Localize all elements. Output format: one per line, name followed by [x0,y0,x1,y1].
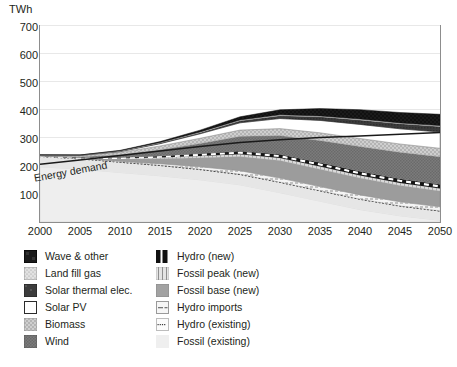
swatch-solar-pv-icon [24,301,37,314]
swatch-land-fill-gas-icon [24,267,37,280]
legend-item-biomass: Biomass [24,316,133,333]
y-tick-600: 600 [4,50,38,61]
legend-label-land-fill-gas: Land fill gas [45,268,101,279]
swatch-fossil-peak-new-icon [156,267,169,280]
y-tick-100: 100 [4,190,38,201]
legend-item-land-fill-gas: Land fill gas [24,265,133,282]
legend-item-wave-other: Wave & other [24,248,133,265]
x-tick-2015: 2015 [148,226,172,237]
y-tick-500: 500 [4,78,38,89]
right-axis-line [440,25,441,223]
legend-item-solar-thermal: Solar thermal elec. [24,282,133,299]
x-tick-2000: 2000 [28,226,52,237]
legend-item-wind: Wind [24,333,133,350]
legend-item-solar-pv: Solar PV [24,299,133,316]
swatch-hydro-imports-icon [156,301,169,314]
swatch-hydro-new-icon [156,250,169,263]
x-tick-2050: 2050 [428,226,452,237]
x-tick-2045: 2045 [388,226,412,237]
x-tick-2005: 2005 [68,226,92,237]
legend-item-hydro-imports: Hydro imports [156,299,259,316]
legend-label-fossil-peak-new: Fossil peak (new) [177,268,259,279]
chart-legend: Wave & other Land fill gas Solar thermal… [0,248,457,360]
x-tick-2040: 2040 [348,226,372,237]
y-tick-300: 300 [4,134,38,145]
y-tick-700: 700 [4,22,38,33]
legend-item-fossil-existing: Fossil (existing) [156,333,259,350]
x-axis-line [39,222,441,223]
swatch-biomass-icon [24,318,37,331]
stacked-area-svg [40,25,440,222]
legend-column-left: Wave & other Land fill gas Solar thermal… [24,248,133,350]
legend-label-hydro-imports: Hydro imports [177,302,242,313]
y-axis-unit-label: TWh [9,3,33,15]
x-tick-2035: 2035 [308,226,332,237]
x-tick-2020: 2020 [188,226,212,237]
y-axis-line [39,25,40,223]
x-tick-2010: 2010 [108,226,132,237]
swatch-fossil-base-new-icon [156,284,169,297]
swatch-wave-other-icon [24,250,37,263]
legend-label-biomass: Biomass [45,319,85,330]
legend-label-hydro-existing: Hydro (existing) [177,319,251,330]
y-tick-400: 400 [4,106,38,117]
legend-label-wind: Wind [45,336,69,347]
legend-label-fossil-existing: Fossil (existing) [177,336,250,347]
legend-label-hydro-new: Hydro (new) [177,251,234,262]
legend-item-hydro-existing: Hydro (existing) [156,316,259,333]
swatch-wind-icon [24,335,37,348]
x-tick-2030: 2030 [268,226,292,237]
swatch-solar-thermal-icon [24,284,37,297]
legend-label-wave-other: Wave & other [45,251,108,262]
swatch-hydro-existing-icon [156,318,169,331]
swatch-fossil-existing-icon [156,335,169,348]
legend-item-fossil-base-new: Fossil base (new) [156,282,259,299]
legend-label-solar-thermal: Solar thermal elec. [45,285,133,296]
legend-item-hydro-new: Hydro (new) [156,248,259,265]
legend-label-fossil-base-new: Fossil base (new) [177,285,259,296]
legend-label-solar-pv: Solar PV [45,302,86,313]
chart-figure: TWh 700 600 500 400 300 200 100 [0,0,457,367]
plot-area [40,25,440,222]
legend-item-fossil-peak-new: Fossil peak (new) [156,265,259,282]
x-tick-2025: 2025 [228,226,252,237]
legend-column-right: Hydro (new) Fossil peak (new) Fossil bas… [156,248,259,350]
